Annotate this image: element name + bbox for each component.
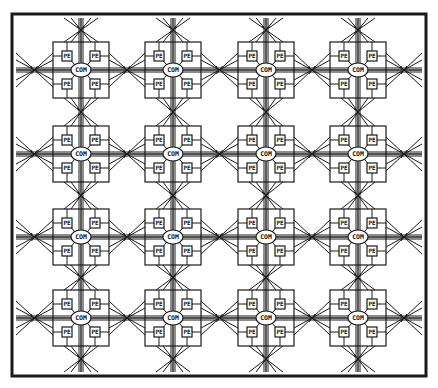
pe-label: PE [368, 52, 376, 59]
pe-label: PE [340, 164, 348, 171]
pe-label: PE [155, 52, 163, 59]
pe-label: PE [155, 80, 163, 87]
pe-unit: PE [154, 246, 164, 256]
horizontal-link [109, 301, 145, 335]
pe-unit: PE [182, 246, 192, 256]
horizontal-link [109, 220, 145, 254]
pe-unit: PE [367, 163, 377, 173]
pe-unit: PE [367, 79, 377, 89]
pe-unit: PE [154, 327, 164, 337]
processing-cell: COMPEPEPEPE [238, 42, 294, 98]
switch-dot-icon [400, 233, 402, 235]
pe-unit: PE [247, 246, 257, 256]
horizontal-link [386, 220, 422, 254]
horizontal-link [386, 53, 422, 87]
horizontal-link [109, 53, 145, 87]
pe-unit: PE [62, 79, 72, 89]
pe-label: PE [183, 247, 191, 254]
horizontal-link [109, 137, 145, 171]
pe-label: PE [183, 164, 191, 171]
pe-unit: PE [90, 299, 100, 309]
pe-label: PE [63, 80, 71, 87]
vertical-link [249, 182, 283, 209]
pe-label: PE [368, 328, 376, 335]
switch-dot-icon [77, 192, 79, 194]
switch-dot-icon [123, 66, 125, 68]
pe-unit: PE [182, 51, 192, 61]
pe-label: PE [63, 164, 71, 171]
pe-label: PE [368, 136, 376, 143]
vertical-link [341, 265, 375, 290]
pe-label: PE [63, 247, 71, 254]
pe-unit: PE [62, 246, 72, 256]
pe-unit: PE [62, 135, 72, 145]
pe-unit: PE [339, 163, 349, 173]
horizontal-link [294, 53, 330, 87]
pe-label: PE [368, 219, 376, 226]
switch-dot-icon [77, 274, 79, 276]
pe-label: PE [183, 52, 191, 59]
switch-dot-icon [77, 355, 79, 357]
horizontal-link [386, 301, 422, 335]
switch-dot-icon [262, 108, 264, 110]
pe-unit: PE [275, 327, 285, 337]
processing-cell: COMPEPEPEPE [145, 42, 201, 98]
vertical-link [64, 18, 98, 42]
pe-label: PE [340, 219, 348, 226]
pe-unit: PE [90, 327, 100, 337]
pe-label: PE [155, 328, 163, 335]
pe-label: PE [183, 80, 191, 87]
switch-dot-icon [169, 192, 171, 194]
pe-unit: PE [90, 51, 100, 61]
pe-unit: PE [247, 135, 257, 145]
pe-label: PE [340, 52, 348, 59]
switch-dot-icon [123, 233, 125, 235]
horizontal-link [201, 220, 238, 254]
cell-grid: COMPEPEPEPECOMPEPEPEPECOMPEPEPEPECOMPEPE… [53, 42, 386, 346]
pe-label: PE [340, 300, 348, 307]
switch-dot-icon [31, 66, 33, 68]
vertical-link [156, 346, 190, 372]
switch-dot-icon [216, 66, 218, 68]
switch-dot-icon [308, 150, 310, 152]
pe-unit: PE [154, 79, 164, 89]
vertical-link [341, 98, 375, 126]
pe-unit: PE [339, 246, 349, 256]
pe-label: PE [63, 219, 71, 226]
pe-unit: PE [154, 299, 164, 309]
horizontal-link [201, 301, 238, 335]
pe-label: PE [248, 164, 256, 171]
pe-unit: PE [154, 218, 164, 228]
pe-label: PE [155, 164, 163, 171]
pe-unit: PE [339, 51, 349, 61]
switch-dot-icon [400, 314, 402, 316]
pe-label: PE [63, 52, 71, 59]
horizontal-link [386, 137, 422, 171]
switch-dot-icon [216, 150, 218, 152]
pe-label: PE [183, 219, 191, 226]
pe-unit: PE [339, 299, 349, 309]
horizontal-link [16, 53, 53, 87]
pe-label: PE [276, 52, 284, 59]
pe-label: PE [63, 328, 71, 335]
switch-dot-icon [400, 66, 402, 68]
pe-label: PE [155, 219, 163, 226]
pe-label: PE [340, 80, 348, 87]
pe-unit: PE [62, 163, 72, 173]
com-label: COM [167, 150, 179, 158]
pe-label: PE [63, 300, 71, 307]
processing-cell: COMPEPEPEPE [238, 126, 294, 182]
pe-label: PE [368, 247, 376, 254]
pe-label: PE [248, 80, 256, 87]
vertical-link [156, 182, 190, 209]
com-label: COM [352, 66, 364, 74]
switch-dot-icon [169, 274, 171, 276]
vertical-link [249, 346, 283, 372]
pe-label: PE [91, 219, 99, 226]
horizontal-link [201, 137, 238, 171]
switch-dot-icon [262, 192, 264, 194]
pe-label: PE [183, 136, 191, 143]
vertical-link [156, 18, 190, 42]
pe-label: PE [276, 300, 284, 307]
vertical-link [341, 346, 375, 372]
